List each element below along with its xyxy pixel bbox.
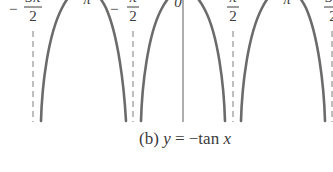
caption-fn: tan xyxy=(198,129,219,148)
caption-equals: = xyxy=(175,129,185,148)
tick-sign: − xyxy=(9,1,17,17)
branch-3 xyxy=(241,0,325,121)
tick-sign: − xyxy=(110,1,118,17)
tick-label-neg-pi: π xyxy=(83,0,91,7)
tick-label-neg-3pi-2: − 3π 2 xyxy=(9,0,42,24)
tick-den: 2 xyxy=(129,8,137,24)
tick-den: 2 xyxy=(229,8,237,24)
tick-label-zero: 0 xyxy=(174,0,182,10)
branch-1 xyxy=(41,0,126,121)
tick-num: 3π xyxy=(324,0,333,5)
caption-lhs: y xyxy=(163,129,171,148)
tick-num: π xyxy=(83,0,91,7)
figure-caption: (b) y = −tan x xyxy=(0,129,333,149)
tick-label-3pi-2: 3π 2 xyxy=(324,0,333,24)
tan-graph-figure: − 3π 2 π − π 2 0 π xyxy=(0,0,333,172)
tick-num: π xyxy=(283,0,291,7)
tick-num: π xyxy=(129,0,137,5)
tick-label-pi-2: π 2 xyxy=(227,0,239,24)
tick-num: 3π xyxy=(24,0,41,5)
tick-num: 0 xyxy=(174,0,182,10)
tick-label-pi: π xyxy=(283,0,291,7)
tick-num: π xyxy=(229,0,237,5)
caption-prefix: (b) xyxy=(139,129,159,148)
tick-den: 2 xyxy=(29,8,37,24)
tick-label-neg-pi-2: − π 2 xyxy=(110,0,139,24)
caption-sign: − xyxy=(189,129,199,148)
caption-var: x xyxy=(223,129,231,148)
tick-den: 2 xyxy=(329,8,333,24)
